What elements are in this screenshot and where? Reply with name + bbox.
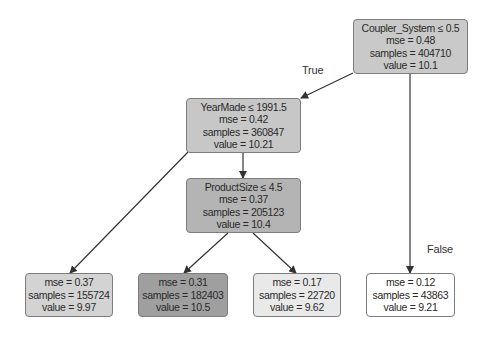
node-value: value = 10.4	[217, 218, 271, 231]
node-samples: samples = 360847	[203, 126, 284, 139]
node-value: value = 9.97	[42, 301, 96, 314]
node-samples: samples = 404710	[370, 47, 451, 60]
node-samples: samples = 205123	[203, 206, 284, 219]
edge-label-false: False	[427, 243, 453, 255]
node-value: value = 10.5	[156, 301, 210, 314]
node-yearmade: YearMade ≤ 1991.5 mse = 0.42 samples = 3…	[186, 98, 301, 153]
node-mse: mse = 0.37	[219, 193, 268, 206]
edge-arrow-yearmade-to-leaf1	[70, 152, 188, 273]
node-productsize: ProductSize ≤ 4.5 mse = 0.37 samples = 2…	[186, 178, 301, 233]
leaf-node-4: mse = 0.12 samples = 43863 value = 9.21	[366, 273, 455, 317]
node-samples: samples = 22720	[259, 289, 335, 302]
edge-arrow-productsize-to-leaf2	[184, 233, 228, 273]
node-samples: samples = 43863	[373, 289, 449, 302]
node-mse: mse = 0.48	[386, 34, 435, 47]
node-mse: mse = 0.37	[44, 276, 93, 289]
node-mse: mse = 0.17	[272, 276, 321, 289]
node-mse: mse = 0.42	[219, 113, 268, 126]
node-value: value = 10.21	[214, 138, 273, 151]
node-condition: Coupler_System ≤ 0.5	[362, 22, 460, 35]
leaf-node-1: mse = 0.37 samples = 155724 value = 9.97	[25, 273, 113, 317]
node-root-coupler-system: Coupler_System ≤ 0.5 mse = 0.48 samples …	[353, 19, 468, 74]
leaf-node-3: mse = 0.17 samples = 22720 value = 9.62	[253, 273, 341, 317]
node-condition: YearMade ≤ 1991.5	[200, 101, 286, 114]
node-samples: samples = 182403	[142, 289, 223, 302]
edge-label-true: True	[302, 64, 323, 76]
edge-arrow-root-to-yearmade	[301, 73, 353, 98]
leaf-node-2: mse = 0.31 samples = 182403 value = 10.5	[138, 273, 228, 317]
edge-arrow-productsize-to-leaf3	[253, 233, 296, 273]
node-mse: mse = 0.12	[386, 276, 435, 289]
node-value: value = 9.21	[384, 301, 438, 314]
node-mse: mse = 0.31	[158, 276, 207, 289]
node-samples: samples = 155724	[28, 289, 109, 302]
node-value: value = 9.62	[270, 301, 324, 314]
node-condition: ProductSize ≤ 4.5	[205, 181, 283, 194]
node-value: value = 10.1	[384, 59, 438, 72]
